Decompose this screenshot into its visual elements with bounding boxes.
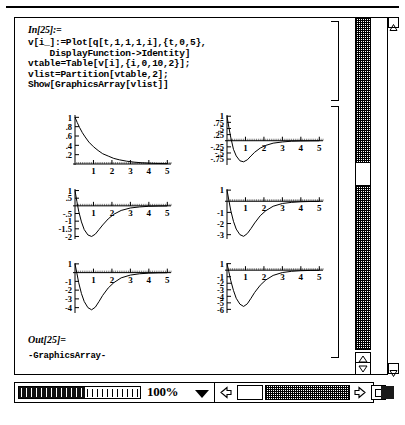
svg-text:4: 4 <box>299 143 304 153</box>
svg-text:1: 1 <box>243 143 248 153</box>
svg-text:1: 1 <box>68 113 72 123</box>
svg-text:1: 1 <box>91 208 96 218</box>
output-cell-label: Out[25]= <box>28 334 66 345</box>
magnification-ticks-left <box>21 388 83 397</box>
output-cell-text: -GraphicsArray- <box>28 351 106 361</box>
svg-text:2: 2 <box>262 143 267 153</box>
svg-text:4: 4 <box>147 275 152 285</box>
svg-text:-.75: -.75 <box>211 154 224 164</box>
zoom-level-value[interactable]: 100% <box>147 384 178 400</box>
scroll-down-arrow-icon[interactable] <box>355 362 371 375</box>
plot-2[interactable]: 123451.75.5.25-.25-.5-.75 <box>181 110 329 180</box>
svg-text:1: 1 <box>91 166 96 176</box>
horizontal-scrollbar-track[interactable] <box>265 385 350 400</box>
window-right-edge <box>388 17 399 375</box>
scroll-down-arrow-icon[interactable] <box>388 363 399 374</box>
svg-text:-2: -2 <box>217 219 224 229</box>
graphics-array-output: 12345.2.4.6.81123451.75.5.25-.25-.5-.751… <box>29 110 329 328</box>
status-bar-divider <box>214 383 215 402</box>
scroll-up-arrow-icon[interactable] <box>388 17 399 28</box>
svg-text:3: 3 <box>128 166 133 176</box>
magnification-ticks-right <box>87 389 139 397</box>
svg-text:5: 5 <box>165 275 170 285</box>
svg-text:.8: .8 <box>66 122 72 132</box>
svg-text:5: 5 <box>165 166 170 176</box>
svg-text:-6: -6 <box>217 305 224 315</box>
output-cell-bracket[interactable] <box>331 106 339 358</box>
svg-text:2: 2 <box>110 166 115 176</box>
svg-text:-1: -1 <box>217 208 224 218</box>
plot-6[interactable]: 123451-1-2-3-4-5-6 <box>181 258 329 328</box>
notebook-window-body: In[25]:= v[i_]:=Plot[q[t,1,1,1,i],{t,0,5… <box>14 17 388 375</box>
plot-3[interactable]: 123451.5-.5-1-1.5-2 <box>29 184 177 254</box>
svg-text:4: 4 <box>299 203 304 213</box>
scroll-right-arrow-icon[interactable] <box>353 385 368 400</box>
scroll-left-arrow-icon[interactable] <box>218 385 233 400</box>
svg-text:.25: .25 <box>213 130 224 140</box>
notebook-content-area[interactable]: In[25]:= v[i_]:=Plot[q[t,1,1,1,i],{t,0,5… <box>15 18 349 374</box>
vertical-scrollbar[interactable] <box>349 18 387 374</box>
svg-text:.6: .6 <box>66 131 72 141</box>
svg-text:3: 3 <box>128 208 133 218</box>
svg-text:1: 1 <box>220 259 224 269</box>
input-cell-bracket[interactable] <box>331 21 339 101</box>
svg-text:1: 1 <box>243 272 248 282</box>
chevron-down-icon[interactable] <box>195 390 209 398</box>
window-title-rule <box>6 6 399 8</box>
status-bar: 100% <box>14 382 374 403</box>
svg-text:.5: .5 <box>66 193 72 203</box>
svg-text:3: 3 <box>280 203 285 213</box>
mathematica-notebook-window: In[25]:= v[i_]:=Plot[q[t,1,1,1,i],{t,0,5… <box>0 0 405 425</box>
svg-text:1: 1 <box>68 259 72 269</box>
plot-4[interactable]: 123451-1-2-3 <box>181 184 329 254</box>
horizontal-scrollbar-thumb[interactable] <box>237 385 263 400</box>
svg-text:1: 1 <box>243 203 248 213</box>
svg-text:5: 5 <box>165 208 170 218</box>
svg-text:3: 3 <box>280 272 285 282</box>
svg-text:-4: -4 <box>65 303 73 313</box>
svg-text:.2: .2 <box>66 150 72 160</box>
svg-text:5: 5 <box>317 203 322 213</box>
grow-box-icon[interactable] <box>381 386 394 399</box>
svg-text:2: 2 <box>262 272 267 282</box>
svg-text:.4: .4 <box>66 141 73 151</box>
svg-text:5: 5 <box>317 143 322 153</box>
svg-text:-3: -3 <box>217 230 224 240</box>
vertical-scrollbar-thumb[interactable] <box>355 162 371 186</box>
svg-text:-2: -2 <box>65 232 72 242</box>
svg-text:3: 3 <box>128 275 133 285</box>
svg-text:1: 1 <box>91 275 96 285</box>
input-cell-code[interactable]: v[i_]:=Plot[q[t,1,1,1,i],{t,0,5}, Displa… <box>28 38 328 91</box>
plot-1[interactable]: 12345.2.4.6.81 <box>29 110 177 180</box>
svg-text:1: 1 <box>220 185 224 195</box>
magnification-slider[interactable] <box>18 386 141 399</box>
svg-text:5: 5 <box>317 272 322 282</box>
plot-5[interactable]: 123451-1-2-3-4 <box>29 258 177 328</box>
svg-text:2: 2 <box>110 208 115 218</box>
input-cell-label: In[25]:= <box>28 24 62 35</box>
svg-text:3: 3 <box>280 143 285 153</box>
svg-text:4: 4 <box>147 166 152 176</box>
svg-text:4: 4 <box>299 272 304 282</box>
svg-text:4: 4 <box>147 208 152 218</box>
